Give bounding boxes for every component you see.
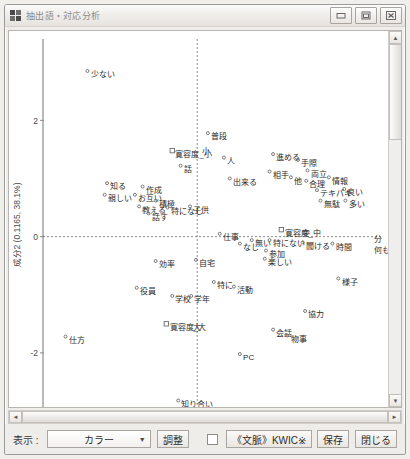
plot-point-label: 小	[202, 147, 210, 156]
plot-point-label: 効率	[159, 259, 175, 269]
plot-point[interactable]: 会話	[272, 328, 293, 338]
correspondence-analysis-plot[interactable]: 20-2成分2 (0.1165, 38.1%)少ない普段寛容度_小小話人出来る進…	[9, 31, 391, 408]
plot-point-label: 自宅	[199, 258, 215, 268]
plot-point-label: 仕事	[223, 232, 239, 242]
plot-point[interactable]: 自宅	[194, 258, 215, 268]
svg-text:2: 2	[33, 116, 38, 126]
plot-point[interactable]: 普段	[206, 131, 227, 141]
plot-point-label: 大	[193, 322, 201, 332]
plot-point[interactable]: 手際	[296, 158, 317, 168]
plot-point[interactable]: 親しい	[103, 193, 132, 203]
plot-point-label: 特に	[217, 280, 233, 290]
plot-point-label: 時間	[336, 243, 352, 252]
plot-point[interactable]: 知る	[106, 181, 127, 191]
plot-point[interactable]: 様子	[337, 277, 358, 287]
plot-point[interactable]: 合理	[305, 179, 326, 189]
plot-point-label: 物事	[291, 334, 307, 344]
plot-point[interactable]: 物事	[286, 334, 307, 344]
plot-horizontal-scrollbar[interactable]: ◄ ►	[8, 410, 402, 424]
window-titlebar[interactable]: 抽出語・対応分析	[5, 5, 405, 27]
horizontal-scroll-thumb[interactable]	[22, 411, 388, 423]
close-button[interactable]: 閉じる	[355, 430, 397, 448]
maximize-icon[interactable]	[355, 7, 377, 24]
plot-point-label: 特にない	[273, 238, 305, 248]
plot-point-label: 良い	[347, 187, 363, 197]
kwic-button[interactable]: 《文脈》KWIC※	[226, 430, 312, 448]
scroll-down-arrow-icon[interactable]: ▼	[389, 394, 402, 407]
plot-point-label: 出来る	[233, 177, 257, 187]
plot-point[interactable]: 情報	[327, 176, 348, 186]
plot-point-label: 他	[294, 176, 302, 186]
plot-point[interactable]: 小	[202, 147, 210, 156]
color-mode-select[interactable]: カラー ▼	[47, 430, 151, 448]
plot-point-label: 合理	[309, 179, 325, 189]
plot-point[interactable]: 特にない	[268, 238, 305, 248]
app-grid-icon	[10, 10, 21, 21]
plot-point[interactable]: 両立	[306, 169, 327, 179]
plot-point-label: 聞ける	[306, 242, 330, 251]
plot-point-label: 分	[374, 235, 382, 244]
plot-point[interactable]: 効率	[154, 259, 175, 269]
minimize-icon[interactable]	[330, 7, 352, 24]
scroll-right-arrow-icon[interactable]: ►	[388, 411, 401, 423]
plot-point-label: 無い	[255, 238, 271, 248]
plot-point-label: 両立	[311, 169, 327, 179]
color-mode-value: カラー	[84, 432, 114, 447]
plot-point[interactable]: 学校	[171, 294, 192, 304]
plot-point[interactable]: 知り合い	[177, 399, 214, 408]
adjust-button[interactable]: 調整	[157, 430, 189, 448]
plot-point-label: 親しい	[108, 193, 132, 203]
plot-point-label: 仕方	[69, 335, 85, 345]
scroll-up-arrow-icon[interactable]: ▲	[389, 31, 402, 44]
plot-point[interactable]: 特に	[212, 280, 233, 290]
plot-point[interactable]: 進める	[272, 153, 301, 163]
plot-point[interactable]: 活動	[232, 285, 253, 295]
window-title: 抽出語・対応分析	[26, 9, 330, 22]
screenshot-root: 抽出語・対応分析 20-2成分2 (0.1165, 38.1%)少ない普段寛容度…	[0, 0, 410, 459]
plot-point[interactable]: 仕事	[218, 232, 239, 242]
plot-point[interactable]: 学年	[190, 294, 211, 304]
plot-point-label: 手際	[301, 158, 317, 168]
plot-point-label: 協力	[308, 309, 324, 319]
plot-point[interactable]: 協力	[304, 309, 325, 319]
plot-point[interactable]: 他	[289, 176, 302, 186]
plot-point[interactable]: 寛容度_中	[279, 227, 321, 237]
plot-point[interactable]: 出来る	[228, 177, 257, 187]
plot-point-label: 相手	[273, 170, 289, 180]
plot-point[interactable]: 楽しい	[263, 257, 292, 267]
plot-point-label: 活動	[237, 285, 253, 295]
plot-point[interactable]: 役員	[135, 286, 156, 296]
save-button[interactable]: 保存	[317, 430, 349, 448]
analysis-window: 抽出語・対応分析 20-2成分2 (0.1165, 38.1%)少ない普段寛容度…	[4, 4, 406, 455]
plot-point[interactable]: 聞ける	[301, 241, 330, 251]
kwic-checkbox[interactable]	[207, 434, 218, 445]
display-label: 表示 :	[13, 432, 39, 447]
window-controls	[330, 7, 402, 24]
plot-point[interactable]: 大	[193, 322, 201, 332]
plot-point[interactable]: 時間	[331, 242, 352, 252]
plot-point[interactable]: 分	[374, 235, 382, 244]
vertical-scroll-thumb[interactable]	[389, 44, 402, 140]
plot-point[interactable]: お互い	[133, 193, 162, 203]
plot-point-label: 話す	[152, 212, 168, 222]
plot-point[interactable]: 仕方	[64, 335, 85, 345]
close-icon[interactable]	[380, 7, 402, 24]
plot-point-label: 多い	[349, 199, 365, 209]
plot-point-label: 情報	[332, 176, 348, 186]
plot-point[interactable]: 相手	[268, 170, 289, 180]
plot-point[interactable]: 話す	[147, 212, 168, 222]
plot-point[interactable]: 多い	[344, 199, 365, 209]
plot-vertical-scrollbar[interactable]: ▲ ▼	[388, 31, 401, 407]
plot-point[interactable]: PC	[238, 353, 254, 363]
plot-point[interactable]: 話	[179, 164, 192, 174]
plot-point-label: 話	[184, 164, 192, 174]
scroll-left-arrow-icon[interactable]: ◄	[9, 411, 22, 423]
plot-point[interactable]: 無駄	[319, 199, 340, 209]
plot-point[interactable]: 人	[222, 156, 235, 166]
plot-point-label: 人	[227, 157, 235, 166]
plot-point-label: 知る	[110, 181, 126, 191]
plot-frame: 20-2成分2 (0.1165, 38.1%)少ない普段寛容度_小小話人出来る進…	[8, 30, 402, 408]
bottom-toolbar: 表示 : カラー ▼ 調整 《文脈》KWIC※ 保存 閉じる	[5, 424, 405, 454]
plot-point[interactable]: 中	[302, 228, 310, 238]
plot-point[interactable]: 少ない	[86, 69, 115, 79]
